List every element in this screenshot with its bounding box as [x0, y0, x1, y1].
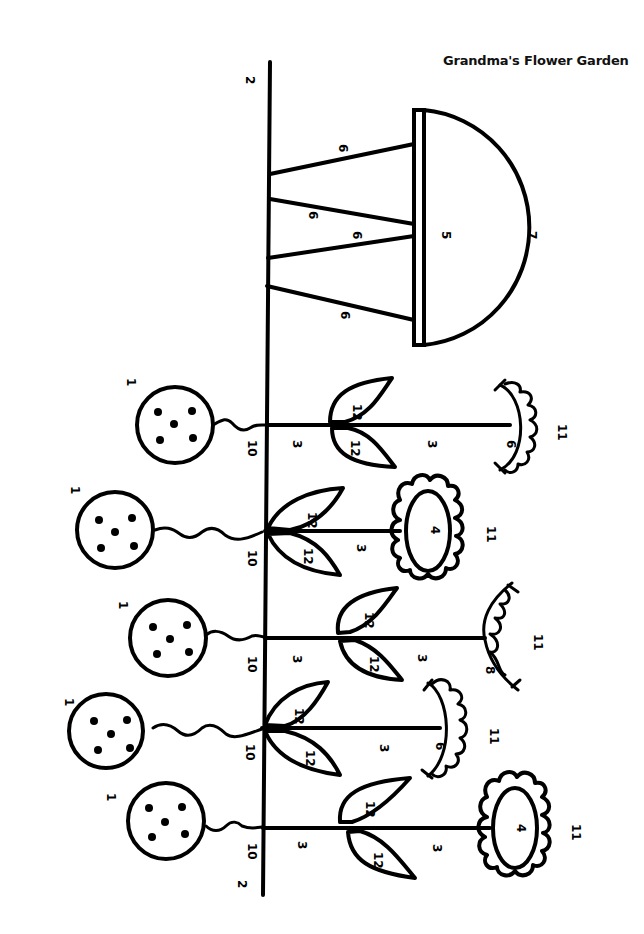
svg-text:12: 12 — [367, 656, 381, 673]
svg-text:1: 1 — [68, 486, 82, 494]
svg-text:3: 3 — [290, 440, 304, 448]
flower-1: 1 10 3 12 12 3 6 11 — [124, 378, 569, 473]
svg-text:12: 12 — [292, 708, 306, 725]
svg-text:12: 12 — [301, 548, 315, 565]
svg-text:10: 10 — [245, 656, 259, 673]
table: 6 6 6 6 5 7 — [267, 110, 539, 345]
svg-text:1: 1 — [124, 378, 138, 386]
svg-text:11: 11 — [531, 634, 545, 651]
table-top-label: 5 — [439, 231, 453, 239]
svg-text:10: 10 — [245, 843, 259, 860]
flower-head-center — [406, 491, 450, 571]
svg-text:11: 11 — [487, 728, 501, 745]
svg-text:3: 3 — [430, 844, 444, 852]
svg-text:12: 12 — [362, 612, 376, 629]
svg-text:3: 3 — [415, 654, 429, 662]
leg-label: 6 — [336, 144, 350, 152]
balloon-string — [206, 822, 263, 830]
drawing: 2 2 6 6 6 6 5 7 — [0, 0, 644, 934]
svg-text:11: 11 — [569, 824, 583, 841]
table-dome-label: 7 — [525, 231, 539, 239]
balloon-string — [213, 420, 267, 430]
svg-text:4: 4 — [428, 526, 442, 534]
svg-text:11: 11 — [555, 424, 569, 441]
svg-text:3: 3 — [377, 744, 391, 752]
svg-text:3: 3 — [425, 440, 439, 448]
leg-label: 6 — [338, 311, 352, 319]
svg-text:11: 11 — [484, 526, 498, 543]
fence-top-label: 2 — [243, 76, 257, 84]
flower-4: 1 10 12 12 3 6 11 — [62, 680, 501, 778]
svg-text:12: 12 — [303, 750, 317, 767]
svg-text:6: 6 — [433, 742, 447, 750]
fence-bottom-label: 2 — [235, 880, 249, 888]
table-leg — [270, 199, 414, 224]
svg-text:6: 6 — [504, 440, 518, 448]
balloon-string — [155, 528, 262, 539]
flower-3: 1 10 3 12 12 3 8 11 — [116, 583, 545, 690]
flower-5: 1 10 3 12 12 3 4 11 — [104, 772, 583, 878]
coloring-page: Grandma's Flower Garden 2 2 6 6 6 6 5 7 — [0, 0, 644, 934]
balloon-string — [153, 724, 262, 736]
svg-text:3: 3 — [290, 655, 304, 663]
svg-text:1: 1 — [62, 698, 76, 706]
leaf — [332, 428, 395, 467]
svg-text:10: 10 — [245, 440, 259, 457]
svg-text:8: 8 — [483, 666, 497, 674]
flower-head-arc — [500, 385, 521, 470]
balloon — [69, 694, 143, 768]
svg-text:12: 12 — [305, 512, 319, 529]
table-leg — [268, 236, 414, 258]
table-dome — [424, 110, 529, 345]
svg-text:12: 12 — [363, 801, 377, 818]
svg-text:12: 12 — [348, 440, 362, 457]
leg-label: 6 — [350, 231, 364, 239]
svg-text:1: 1 — [116, 601, 130, 609]
flower-2: 1 10 12 12 3 4 11 — [68, 475, 498, 578]
balloon-string — [206, 631, 265, 639]
svg-text:4: 4 — [514, 824, 528, 832]
svg-text:12: 12 — [350, 404, 364, 421]
svg-text:3: 3 — [295, 841, 309, 849]
leaf — [265, 731, 340, 775]
svg-text:3: 3 — [354, 544, 368, 552]
leg-label: 6 — [306, 211, 320, 219]
svg-text:1: 1 — [104, 793, 118, 801]
fence-line — [263, 62, 270, 895]
svg-text:12: 12 — [371, 852, 385, 869]
svg-text:10: 10 — [243, 744, 257, 761]
svg-text:10: 10 — [245, 550, 259, 567]
